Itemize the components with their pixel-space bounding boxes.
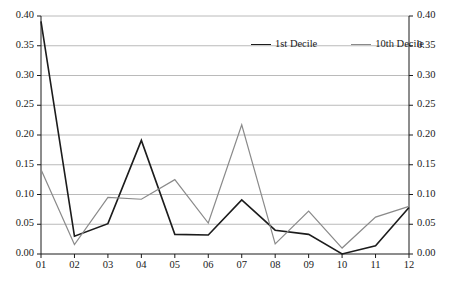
y-axis-left-label: 0.00 bbox=[0, 248, 34, 259]
y-axis-right-label: 0.15 bbox=[417, 159, 451, 170]
y-axis-right-tick-marks bbox=[409, 16, 413, 254]
x-axis-label: 06 bbox=[193, 260, 223, 271]
x-axis-label: 02 bbox=[59, 260, 89, 271]
data-series-lines bbox=[41, 21, 409, 254]
x-axis-label: 05 bbox=[160, 260, 190, 271]
y-axis-left-label: 0.30 bbox=[0, 70, 34, 81]
y-axis-right-label: 0.05 bbox=[417, 218, 451, 229]
x-axis-label: 03 bbox=[93, 260, 123, 271]
y-axis-left-tick-marks bbox=[37, 16, 41, 254]
y-axis-left-label: 0.05 bbox=[0, 218, 34, 229]
legend-line-icon-1st-decile bbox=[251, 44, 271, 45]
y-axis-right-label: 0.20 bbox=[417, 129, 451, 140]
chart-container: 0.000.050.100.150.200.250.300.350.40 0.0… bbox=[0, 0, 455, 283]
series-line-2 bbox=[41, 125, 409, 248]
y-axis-left-label: 0.35 bbox=[0, 40, 34, 51]
series-line-1 bbox=[41, 21, 409, 254]
x-axis-label: 07 bbox=[227, 260, 257, 271]
y-axis-right-label: 0.10 bbox=[417, 189, 451, 200]
legend-label-10th-decile: 10th Decile bbox=[375, 39, 424, 50]
y-axis-right-label: 0.40 bbox=[417, 10, 451, 21]
legend-label-1st-decile: 1st Decile bbox=[275, 39, 317, 50]
x-axis-label: 04 bbox=[126, 260, 156, 271]
y-axis-left-label: 0.20 bbox=[0, 129, 34, 140]
x-axis-label: 08 bbox=[260, 260, 290, 271]
x-axis-label: 11 bbox=[361, 260, 391, 271]
y-axis-left-label: 0.15 bbox=[0, 159, 34, 170]
y-axis-right-label: 0.30 bbox=[417, 70, 451, 81]
legend-item-1st-decile: 1st Decile bbox=[251, 39, 317, 50]
y-axis-left-label: 0.40 bbox=[0, 10, 34, 21]
x-axis-label: 12 bbox=[394, 260, 424, 271]
y-axis-right-label: 0.25 bbox=[417, 99, 451, 110]
y-axis-left-label: 0.10 bbox=[0, 189, 34, 200]
y-axis-left-label: 0.25 bbox=[0, 99, 34, 110]
y-axis-right-label: 0.00 bbox=[417, 248, 451, 259]
x-axis-label: 10 bbox=[327, 260, 357, 271]
x-axis-label: 09 bbox=[294, 260, 324, 271]
legend-line-icon-10th-decile bbox=[351, 44, 371, 45]
x-axis-tick-marks bbox=[41, 254, 409, 258]
chart-legend: 1st Decile 10th Decile bbox=[251, 39, 424, 50]
x-axis-label: 01 bbox=[26, 260, 56, 271]
legend-item-10th-decile: 10th Decile bbox=[351, 39, 424, 50]
